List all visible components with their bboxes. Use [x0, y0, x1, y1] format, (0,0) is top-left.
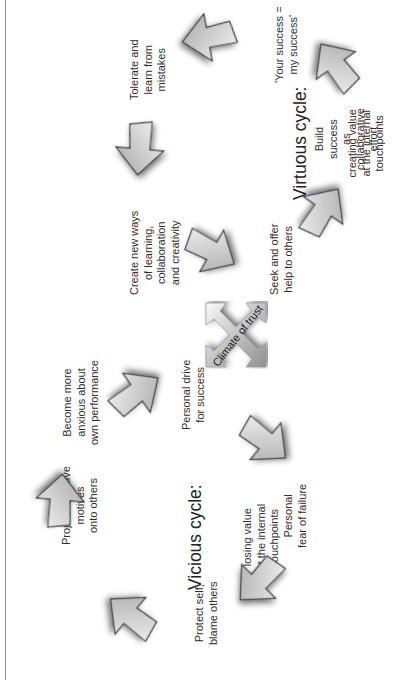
frame-border-line [5, 0, 6, 680]
arrow-icon [25, 467, 94, 536]
arrow-icon [173, 0, 247, 74]
virtuous-step-your-success: 'Your success = my success' [273, 6, 300, 83]
virtuous-step-seek-help: Seek and offer help to others [268, 224, 295, 295]
arrow-icon [90, 349, 179, 438]
vicious-step-fear-of-failure: Personal fear of failure [282, 484, 309, 548]
virtuous-step-build-success: Build success as collaborative effort [313, 108, 381, 170]
virtuous-step-tolerate-mistakes: Tolerate and learn from mistakes [128, 39, 169, 100]
vicious-step-protect-self: Protect self, blame others [193, 581, 220, 645]
vicious-step-become-anxious: Become more anxious about own performanc… [61, 360, 102, 445]
vicious-step-personal-drive: Personal drive for success [180, 360, 207, 430]
arrow-icon [219, 395, 309, 485]
climate-of-trust-icon: Climate of trust [204, 301, 268, 369]
arrow-icon [105, 112, 174, 181]
vicious-cycle-title: Vicious cycle: [186, 484, 205, 590]
